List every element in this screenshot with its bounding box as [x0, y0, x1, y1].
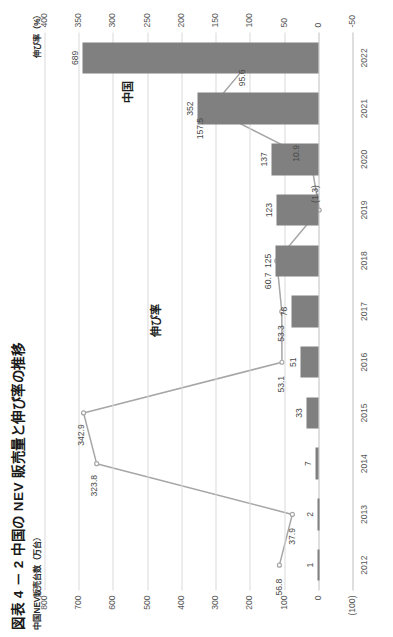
- y2-axis-tick-label: 0: [313, 22, 322, 27]
- y-axis-tick-label: 800: [39, 595, 48, 609]
- plot-area: 8007006005004003002001000(100)4003503002…: [44, 32, 352, 590]
- y2-axis-tick-label: 400: [39, 13, 48, 27]
- line-value-label: 53.3: [277, 325, 286, 342]
- bar-value-label: 352: [185, 101, 194, 115]
- gridline: [78, 32, 79, 590]
- bar: [300, 346, 317, 377]
- x-axis-tick-label: 2015: [358, 403, 368, 422]
- y2-axis-tick-label: 250: [142, 13, 151, 27]
- line-data-point: [279, 360, 283, 364]
- gridline: [181, 32, 182, 590]
- x-axis-line: [352, 32, 353, 590]
- gridline: [44, 32, 45, 590]
- y2-axis-tick-label: 150: [210, 13, 219, 27]
- y-axis-tick-label: 700: [73, 595, 82, 609]
- line-data-point: [94, 461, 98, 465]
- bar-value-label: 125: [263, 253, 272, 267]
- y-axis-tick-label: 400: [176, 595, 185, 609]
- x-axis-tick-label: 2018: [358, 251, 368, 270]
- gridline: [112, 32, 113, 590]
- bar: [306, 397, 317, 428]
- bar-value-label: 7: [303, 461, 312, 466]
- y2-axis-tick-label: 300: [107, 13, 116, 27]
- bar-value-label: 689: [70, 50, 79, 64]
- line-data-point: [290, 512, 294, 516]
- bar: [291, 295, 318, 326]
- y-axis-tick-label: 600: [107, 595, 116, 609]
- y-axis-tick-label: 100: [279, 595, 288, 609]
- y2-axis-tick-label: 50: [279, 17, 288, 27]
- line-data-point: [81, 410, 85, 414]
- bar-value-label: 137: [259, 152, 268, 166]
- y-axis-tick-label: (100): [347, 595, 356, 615]
- x-axis-tick-label: 2020: [358, 149, 368, 168]
- line-value-label: 342.9: [77, 424, 86, 446]
- line-value-label: (1.3): [310, 185, 319, 203]
- bar-value-label: 1: [305, 562, 314, 567]
- bar-series-annotation: 中国: [118, 80, 134, 102]
- line-data-point: [277, 563, 281, 567]
- x-axis-tick-label: 2017: [358, 301, 368, 320]
- bar-value-label: 123: [264, 202, 273, 216]
- x-axis-tick-label: 2021: [358, 99, 368, 118]
- line-value-label: 95.6: [238, 69, 247, 86]
- y-axis-tick-label: 300: [210, 595, 219, 609]
- line-value-label: 323.8: [90, 474, 99, 496]
- figure-title: 図表 4 － 2 中国の NEV 販売量と伸び率の推移: [6, 342, 26, 629]
- x-axis-tick-label: 2019: [358, 200, 368, 219]
- bar: [317, 549, 319, 580]
- rotated-figure-stage: 図表 4 － 2 中国の NEV 販売量と伸び率の推移 中国NEV販売台数（万台…: [0, 0, 393, 637]
- bar-value-label: 78: [279, 306, 288, 316]
- bar-value-label: 2: [305, 512, 314, 517]
- y-axis-tick-label: 500: [142, 595, 151, 609]
- y-axis-tick-label: 0: [313, 595, 322, 600]
- line-value-label: 60.7: [264, 272, 273, 289]
- bar: [197, 92, 317, 123]
- x-axis-tick-label: 2022: [358, 48, 368, 67]
- x-axis-tick-label: 2014: [358, 454, 368, 473]
- bar: [275, 245, 318, 276]
- y-axis-tick-label: 200: [244, 595, 253, 609]
- bar: [317, 498, 319, 529]
- x-axis-tick-label: 2013: [358, 504, 368, 523]
- y2-axis-tick-label: -50: [347, 15, 356, 27]
- line-value-label: 56.8: [275, 578, 284, 595]
- bar: [82, 42, 318, 73]
- bar-value-label: 33: [294, 408, 303, 418]
- y2-axis-tick-label: 200: [176, 13, 185, 27]
- bar: [315, 447, 317, 478]
- x-axis-tick-label: 2012: [358, 555, 368, 574]
- figure: 図表 4 － 2 中国の NEV 販売量と伸び率の推移 中国NEV販売台数（万台…: [0, 0, 393, 637]
- y2-axis-tick-label: 100: [244, 13, 253, 27]
- line-value-label: 37.9: [288, 528, 297, 545]
- bar-value-label: 51: [288, 357, 297, 367]
- line-value-label: 10.9: [292, 144, 301, 161]
- y2-axis-tick-label: 350: [73, 13, 82, 27]
- line-value-label: 53.1: [277, 375, 286, 392]
- line-value-label: 157.5: [196, 117, 205, 139]
- x-axis-tick-label: 2016: [358, 352, 368, 371]
- left-axis-title: 中国NEV販売台数（万台）: [29, 532, 41, 629]
- line-series-annotation: 伸び率: [146, 303, 162, 336]
